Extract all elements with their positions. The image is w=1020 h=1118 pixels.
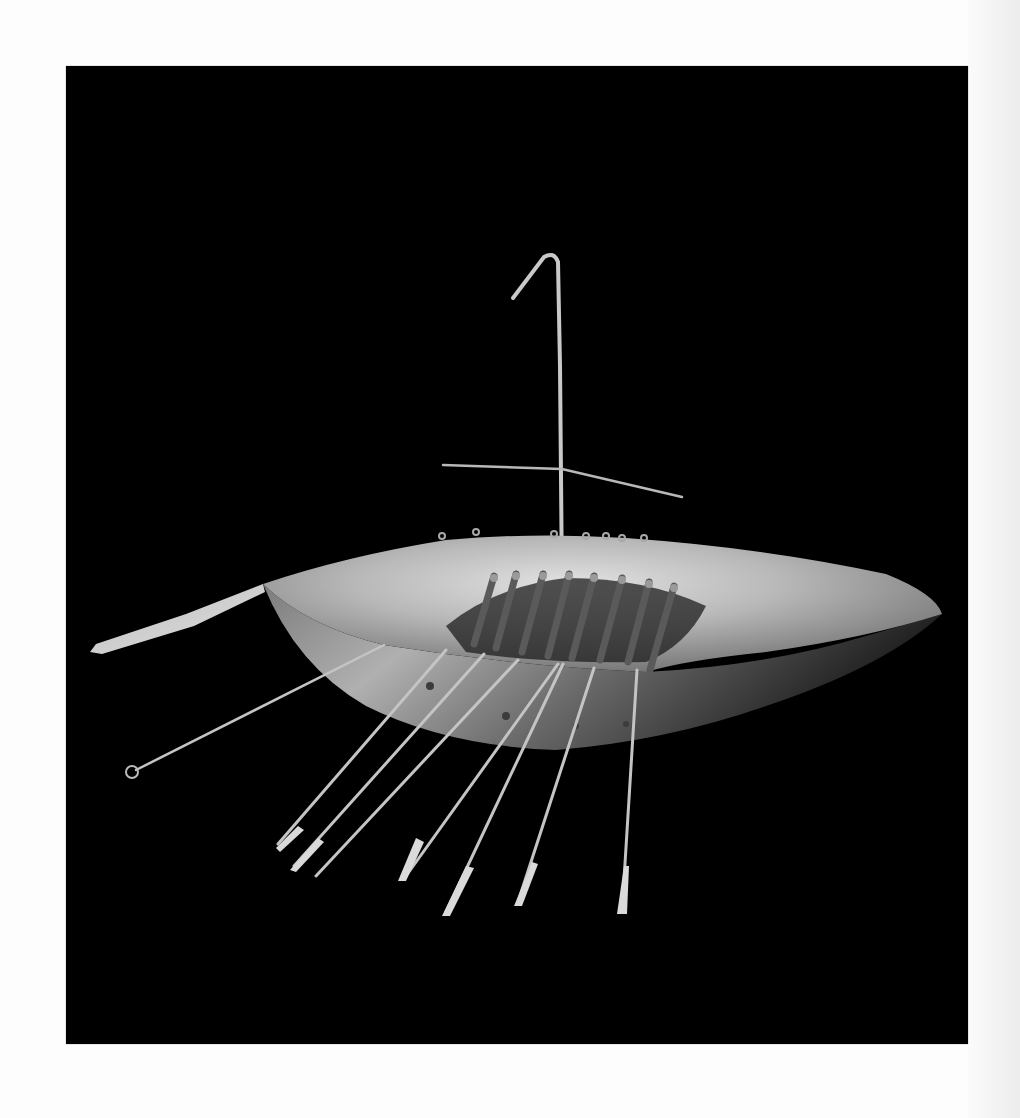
oar-blades bbox=[276, 826, 629, 916]
photograph bbox=[66, 66, 968, 1044]
steering-oar bbox=[90, 584, 265, 654]
oar-ring bbox=[126, 766, 138, 778]
page-edge-shadow bbox=[968, 0, 1020, 1118]
boat-illustration bbox=[66, 66, 968, 1044]
